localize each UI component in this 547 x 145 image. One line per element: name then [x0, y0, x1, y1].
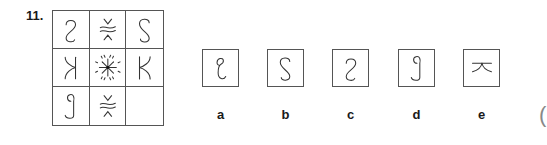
option-b-box[interactable] [267, 49, 304, 87]
option-e-box[interactable] [463, 49, 500, 87]
option-b-label: b [267, 107, 304, 122]
option-d-box[interactable] [398, 49, 435, 87]
grid-cell-r2c1 [53, 49, 90, 87]
k-icon [126, 49, 163, 86]
reversed-s-hook-icon [53, 11, 89, 48]
option-c-box[interactable] [332, 49, 369, 87]
grid-cell-empty [126, 87, 163, 125]
option-c-label: c [332, 107, 369, 122]
question-number: 11. [26, 8, 43, 23]
c-hook-loop-icon [203, 50, 238, 86]
reversed-s-hook-icon [333, 50, 368, 86]
starburst-icon [90, 49, 126, 86]
option-a-label: a [202, 107, 239, 122]
g-hook-icon [399, 50, 434, 86]
option-e-label: e [463, 107, 500, 122]
puzzle-grid [52, 10, 164, 126]
option-d-label: d [398, 107, 435, 122]
grid-cell-r1c3 [126, 11, 163, 49]
option-a-box[interactable] [202, 49, 239, 87]
grid-cell-r3c2 [90, 87, 127, 125]
bar-chevron-icon [464, 50, 499, 86]
grid-cell-r2c2 [90, 49, 127, 87]
s-hook-icon [268, 50, 303, 86]
grid-cell-r2c3 [126, 49, 163, 87]
wave-chevrons-icon [90, 87, 126, 125]
g-hook-icon [53, 87, 89, 125]
answer-bracket: ( [539, 102, 546, 128]
reversed-k-icon [53, 49, 89, 86]
grid-cell-r1c2 [90, 11, 127, 49]
s-hook-icon [126, 11, 163, 48]
grid-cell-r3c1 [53, 87, 90, 125]
wave-chevrons-icon [90, 11, 126, 48]
grid-cell-r1c1 [53, 11, 90, 49]
